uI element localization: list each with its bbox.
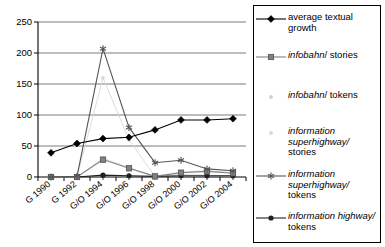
line-chart-svg: 050100150200250G 1990G 1992G/O 1994G/O 1… [0,0,253,247]
data-point-dot [269,131,273,135]
legend-label: informationsuperhighway/tokens [288,169,351,201]
series-information-superhighway-stories [49,76,235,179]
data-point-circle [126,173,131,178]
legend-item-information-highway-tokens[interactable]: information highway/tokens [254,211,382,232]
data-point-square [100,157,105,162]
legend-label: informationsuperhighway/stories [288,126,351,158]
data-point-circle [100,173,105,178]
plot-area: 050100150200250G 1990G 1992G/O 1994G/O 1… [0,0,253,247]
data-point-asterisk [100,45,106,52]
legend-marker-asterisk-icon [254,170,288,182]
y-tick-label: 50 [21,140,32,151]
legend-marker-dot-icon [254,91,288,103]
chart-legend: average textualgrowthinfobahn/ storiesin… [253,5,381,243]
data-point-square [268,54,273,59]
data-point-circle [268,215,273,220]
series-information-superhighway-tokens [48,45,236,180]
data-point-square [152,174,157,179]
legend-label: average textualgrowth [288,12,355,33]
legend-label: infobahn/ stories [288,50,360,61]
data-point-diamond [230,115,237,122]
y-tick-label: 0 [27,171,32,182]
data-point-diamond [152,126,159,133]
data-point-dot [269,95,273,99]
chart-screenshot: 050100150200250G 1990G 1992G/O 1994G/O 1… [0,0,385,247]
x-tick-label: G 1990 [23,179,52,206]
data-point-diamond [204,117,211,124]
y-tick-label: 150 [16,78,32,89]
legend-marker-circle-icon [254,212,288,224]
legend-item-information-superhighway-stories[interactable]: informationsuperhighway/stories [254,126,382,158]
data-point-square [126,166,131,171]
y-tick-label: 250 [16,16,32,27]
series-average-textual-growth [48,115,237,156]
legend-marker-dot-icon [254,127,288,139]
data-point-diamond [178,117,185,124]
legend-item-information-superhighway-tokens[interactable]: informationsuperhighway/tokens [254,169,382,201]
legend-item-infobahn-tokens[interactable]: infobahn/ tokens [254,90,382,103]
legend-item-infobahn-stories[interactable]: infobahn/ stories [254,50,382,63]
data-point-diamond [48,149,55,156]
legend-item-average-textual-growth[interactable]: average textualgrowth [254,12,382,33]
legend-label: information highway/tokens [288,211,377,232]
data-point-diamond [100,135,107,142]
y-tick-label: 200 [16,47,32,58]
data-point-diamond [268,16,275,23]
data-point-square [178,170,183,175]
y-tick-label: 100 [16,109,32,120]
legend-marker-diamond-icon [254,13,288,25]
legend-label: infobahn/ tokens [288,90,360,101]
data-point-dot [101,76,105,80]
legend-marker-square-icon [254,51,288,63]
